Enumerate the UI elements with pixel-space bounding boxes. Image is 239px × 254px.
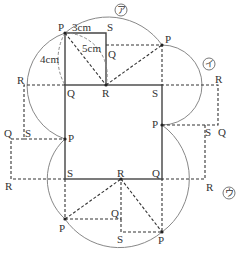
label-s-sq-top: S [152,87,158,99]
dot-p-bottomleft [63,217,66,220]
label-3cm: 3cm [72,21,91,33]
label-r-sq-bottom: R [117,167,125,179]
label-s-right: S [205,126,211,138]
region-label-i: イ [203,58,215,70]
label-q-left: Q [4,127,12,139]
label-r-right-lower: R [206,181,214,193]
label-r-sq-top: R [102,87,110,99]
label-p-bottomright: P [158,234,164,246]
label-q-sq-bottom: Q [152,167,160,179]
label-s-top: S [107,21,113,33]
region-label-a: ア [115,4,127,16]
diag-bottom-right [121,179,162,232]
label-s-sq-bottom: S [67,167,73,179]
label-r-left-upper: R [17,74,25,86]
label-q-sq-top: Q [67,87,75,99]
label-p-left: P [68,132,74,144]
label-p-topright: P [165,33,171,45]
svg-text:ウ: ウ [225,188,234,198]
svg-text:イ: イ [205,59,214,69]
dot-p-topright [160,43,163,46]
geometry-diagram: 3cm 5cm 4cm ア イ ウ P S Q P Q R S R P S Q … [0,0,239,254]
dot-p-right [160,123,163,126]
label-p-right: P [152,118,158,130]
label-q-bottom: Q [111,207,119,219]
arc-u-bottom [65,219,162,248]
arc-top-inner [58,33,65,85]
label-s-left: S [25,127,31,139]
label-q-inner-top: Q [108,48,116,60]
label-5cm: 5cm [82,42,101,54]
main-square [65,85,162,179]
svg-text:ア: ア [117,5,126,15]
label-4cm: 4cm [40,53,59,65]
rect-left-upper [11,85,65,179]
label-p-bottomleft: P [59,222,65,234]
diagonal-top [65,33,106,85]
label-r-left-lower: R [5,180,13,192]
label-s-bottom: S [117,233,123,245]
label-p-top: P [58,21,64,33]
region-label-u: ウ [223,187,235,199]
label-q-right: Q [218,126,226,138]
label-r-right-upper: R [215,73,223,85]
dot-p-left [63,137,66,140]
